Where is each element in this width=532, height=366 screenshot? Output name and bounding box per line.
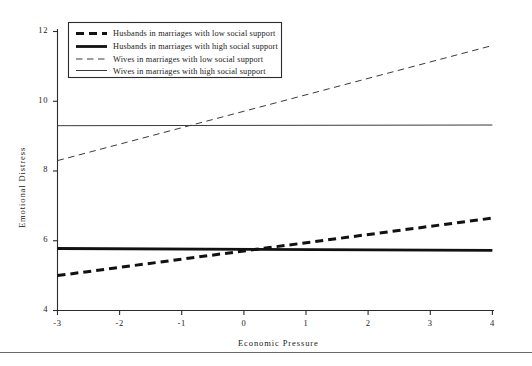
x-axis-title: Economic Pressure (238, 338, 319, 348)
x-tick-label-2: 2 (355, 318, 381, 328)
y-axis-ticks (53, 32, 58, 311)
legend-label-husbands-high-support: Husbands in marriages with high social s… (113, 42, 278, 51)
y-axis-title: Emotional Distress (17, 147, 27, 228)
x-tick-label-neg2: -2 (107, 318, 133, 328)
series-line-wives-high-support (58, 125, 493, 126)
x-tick-label-3: 3 (417, 318, 443, 328)
x-tick-label-neg3: -3 (45, 318, 71, 328)
series-line-husbands-low-support (58, 218, 493, 276)
legend-label-wives-low-support: Wives in marriages with low social suppo… (113, 55, 263, 64)
x-axis-ticks (58, 311, 493, 316)
figure-panel: 4 6 8 10 12 -3 -2 -1 0 1 2 3 4 Emotional… (0, 0, 532, 366)
x-tick-label-1: 1 (293, 318, 319, 328)
legend-label-husbands-low-support: Husbands in marriages with low social su… (113, 29, 276, 38)
x-tick-label-4: 4 (479, 318, 505, 328)
y-tick-label-12: 12 (22, 25, 48, 35)
y-tick-label-6: 6 (22, 234, 48, 244)
bottom-divider-rule (0, 352, 532, 353)
y-tick-label-4: 4 (22, 304, 48, 314)
legend-label-wives-high-support: Wives in marriages with high social supp… (113, 67, 266, 76)
y-tick-label-10: 10 (22, 95, 48, 105)
series-line-husbands-high-support (58, 249, 493, 251)
x-tick-label-neg1: -1 (169, 318, 195, 328)
chart-plot-area (0, 0, 532, 366)
x-tick-label-0: 0 (231, 318, 257, 328)
